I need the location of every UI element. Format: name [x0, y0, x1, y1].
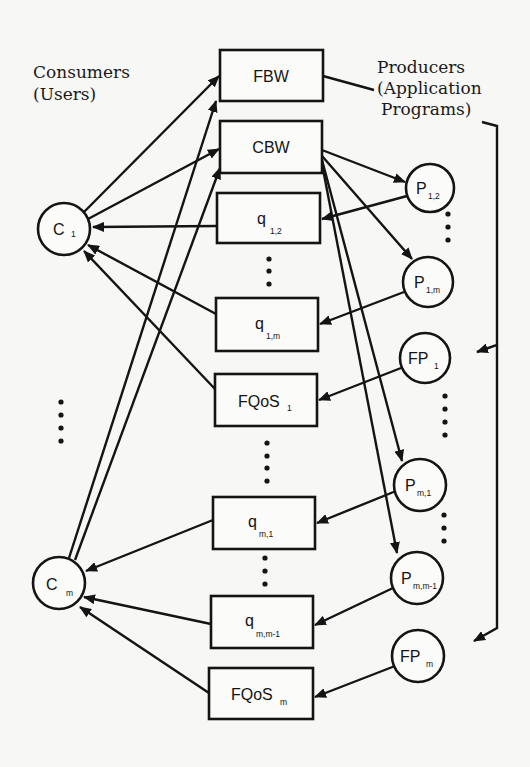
edge-bracket-fp1 [477, 122, 497, 352]
consumers-title-line1: Consumers [33, 62, 130, 82]
edge-cbw-pm1 [322, 160, 402, 461]
producer-pmm1[interactable]: P m,m-1 [391, 552, 443, 604]
edge-cbw-p12 [322, 150, 405, 182]
consumer-cm-subscript: m [66, 588, 73, 598]
producers-title: Producers (Application Programs) [377, 57, 482, 119]
consumers-title-line2: (Users) [33, 84, 96, 104]
queue-qmm1-subscript: m,m-1 [256, 629, 280, 639]
consumer-cm-label: C [46, 576, 58, 593]
producer-p12-subscript: 1,2 [428, 191, 440, 201]
edge-bracket-fpm [474, 345, 497, 641]
queue-column: FBW CBW q 1,2 q 1,m FQoS 1 q [209, 50, 323, 719]
edge-fp1-fqos1 [319, 368, 401, 400]
producer-column: P 1,2 P 1,m FP 1 P m,1 P m, [391, 164, 454, 682]
producer-dots-3 [441, 512, 446, 543]
producer-fp1-subscript: 1 [434, 361, 439, 371]
edge-fpm-fqosm [315, 666, 395, 697]
edge-pmm1-qmm1 [315, 588, 393, 625]
queue-q12[interactable]: q 1,2 [217, 193, 320, 243]
queue-cbw[interactable]: CBW [220, 121, 322, 173]
queue-fbw-label: FBW [253, 68, 289, 85]
queue-fqos1-label: FQoS [238, 393, 280, 410]
queue-q1m-label: q [255, 315, 264, 332]
consumer-c1-subscript: 1 [71, 229, 76, 239]
producer-p12-label: P [416, 180, 427, 197]
edge-c1-fbw [84, 76, 219, 212]
consumer-c1-label: C [53, 221, 65, 238]
queue-cbw-label: CBW [252, 139, 290, 156]
queue-q1m-subscript: 1,m [266, 331, 280, 341]
edge-qm1-cm [86, 520, 213, 571]
queue-qm1-label: q [248, 513, 257, 530]
edge-q12-c1 [93, 226, 217, 227]
edge-qmm1-cm [84, 597, 211, 624]
queue-dots-2 [264, 440, 269, 483]
producer-fp1-label: FP [408, 350, 428, 367]
queue-fqos1-subscript: 1 [287, 403, 292, 413]
producers-title-line1: Producers [377, 57, 465, 77]
producer-p1m[interactable]: P 1,m [403, 257, 453, 307]
consumer-c1[interactable]: C 1 [38, 203, 90, 255]
producers-title-line2: (Application [377, 78, 482, 98]
queue-dots-1 [266, 256, 271, 286]
queue-q1m[interactable]: q 1,m [216, 298, 318, 351]
producer-pm1[interactable]: P m,1 [394, 459, 446, 511]
edge-fbw-producers-label [323, 76, 374, 90]
producer-pmm1-label: P [401, 570, 412, 587]
edge-pm1-qm1 [317, 491, 396, 523]
queue-qmm1[interactable]: q m,m-1 [211, 596, 313, 648]
edge-c1-cbw [88, 149, 219, 219]
producer-dots-2 [442, 393, 447, 437]
queue-qmm1-label: q [245, 612, 254, 629]
producer-pmm1-subscript: m,m-1 [413, 581, 437, 591]
queue-qm1-subscript: m,1 [259, 529, 273, 539]
producer-p1m-label: P [414, 274, 425, 291]
edge-cm-fbw [69, 101, 216, 558]
edge-fqos1-c1 [84, 251, 215, 389]
producer-fpm-label: FP [400, 648, 420, 665]
producer-fpm[interactable]: FP m [392, 630, 444, 682]
queue-fqosm-subscript: m [280, 697, 287, 707]
producer-pm1-subscript: m,1 [417, 488, 431, 498]
queue-fbw[interactable]: FBW [220, 50, 323, 101]
producer-fpm-subscript: m [426, 659, 433, 669]
queue-dots-3 [262, 555, 267, 586]
queue-qm1[interactable]: q m,1 [213, 497, 315, 549]
consumer-column: C 1 C m [33, 203, 90, 609]
producer-p1m-subscript: 1,m [426, 285, 440, 295]
consumer-cm[interactable]: C m [33, 557, 85, 609]
producers-title-line3: Programs) [381, 99, 471, 119]
queue-fqos1[interactable]: FQoS 1 [215, 374, 317, 426]
queue-fqosm[interactable]: FQoS m [209, 668, 313, 719]
edge-p1m-q1m [320, 292, 404, 324]
producer-fp1[interactable]: FP 1 [400, 333, 450, 383]
producer-p12[interactable]: P 1,2 [406, 164, 454, 212]
queue-q12-subscript: 1,2 [270, 226, 282, 236]
producer-dots-1 [445, 211, 450, 242]
queue-fqosm-label: FQoS [231, 686, 273, 703]
producer-pm1-label: P [405, 477, 416, 494]
consumers-title: Consumers (Users) [33, 62, 130, 104]
network-diagram: Consumers (Users) Producers (Application… [0, 0, 530, 767]
consumer-dots [58, 399, 63, 443]
queue-q12-label: q [257, 210, 266, 227]
